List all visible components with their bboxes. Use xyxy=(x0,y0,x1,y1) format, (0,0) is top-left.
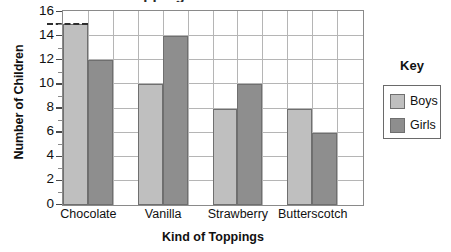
y-tick-mark-minor xyxy=(58,144,62,145)
y-tick-mark-minor xyxy=(58,192,62,193)
y-tick-mark xyxy=(56,131,62,132)
y-tick-label: 14 xyxy=(18,27,54,42)
legend-swatch-girls xyxy=(390,118,405,133)
bar-chocolate-girls xyxy=(88,60,113,205)
bar-vanilla-boys xyxy=(138,84,163,205)
y-tick-mark xyxy=(56,59,62,60)
bar-vanilla-girls xyxy=(163,36,188,205)
gridline-vertical xyxy=(262,11,263,205)
bar-butterscotch-girls xyxy=(312,133,337,205)
legend-swatch-boys xyxy=(390,94,405,109)
legend-label-boys: Boys xyxy=(410,95,438,108)
y-tick-mark-minor xyxy=(58,48,62,49)
y-tick-mark xyxy=(56,35,62,36)
chart-figure: Toppings on Ice Cream Number of Children… xyxy=(0,0,451,252)
x-axis-title: Kind of Toppings xyxy=(62,230,364,244)
legend-box: BoysGirls xyxy=(383,85,441,139)
y-tick-label: 16 xyxy=(18,3,54,18)
bar-butterscotch-boys xyxy=(287,109,312,206)
y-tick-mark-minor xyxy=(58,120,62,121)
y-tick-mark-minor xyxy=(58,168,62,169)
y-tick-label: 6 xyxy=(18,123,54,138)
y-tick-mark xyxy=(56,204,62,205)
y-tick-label: 2 xyxy=(18,171,54,186)
legend-item-girls: Girls xyxy=(390,114,436,136)
gridline-vertical xyxy=(337,11,338,205)
y-tick-mark xyxy=(56,107,62,108)
bar-strawberry-girls xyxy=(237,84,262,205)
y-tick-mark xyxy=(56,11,62,12)
y-tick-label: 10 xyxy=(18,75,54,90)
y-tick-mark-minor xyxy=(58,96,62,97)
bar-chocolate-boys xyxy=(63,24,88,205)
y-tick-mark-minor xyxy=(58,24,62,25)
y-tick-mark-minor xyxy=(58,72,62,73)
dashed-reference-line xyxy=(47,23,88,25)
legend-title: Key xyxy=(381,58,443,73)
gridline-vertical xyxy=(113,11,114,205)
gridline-vertical xyxy=(188,11,189,205)
legend-label-girls: Girls xyxy=(410,119,436,132)
y-tick-mark xyxy=(56,156,62,157)
y-tick-label: 12 xyxy=(18,51,54,66)
plot-area xyxy=(62,10,364,206)
y-tick-label: 4 xyxy=(18,147,54,162)
y-tick-label: 8 xyxy=(18,99,54,114)
y-tick-mark xyxy=(56,180,62,181)
y-tick-mark xyxy=(56,83,62,84)
legend-item-boys: Boys xyxy=(390,90,438,112)
bar-strawberry-boys xyxy=(213,109,238,206)
x-tick-label-butterscotch: Butterscotch xyxy=(263,207,363,221)
chart-title: Toppings on Ice Cream xyxy=(60,0,360,2)
